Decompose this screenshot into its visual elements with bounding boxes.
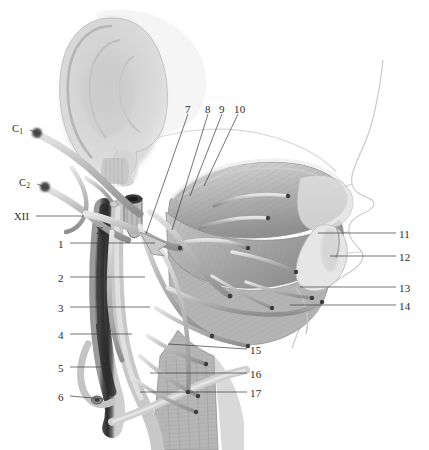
label-12: 12 bbox=[399, 252, 410, 263]
label-13: 13 bbox=[399, 283, 410, 294]
label-7: 7 bbox=[185, 104, 191, 115]
label-c2: C2 bbox=[19, 178, 30, 189]
label-17: 17 bbox=[250, 388, 261, 399]
label-10: 10 bbox=[234, 104, 245, 115]
label-4: 4 bbox=[58, 330, 64, 341]
label-2: 2 bbox=[58, 273, 64, 284]
anatomical-illustration bbox=[0, 0, 429, 450]
label-8: 8 bbox=[205, 104, 211, 115]
label-11: 11 bbox=[399, 229, 410, 240]
label-9: 9 bbox=[219, 104, 225, 115]
label-1: 1 bbox=[58, 239, 64, 250]
label-6: 6 bbox=[58, 392, 64, 403]
label-xii: XII bbox=[14, 212, 29, 223]
label-15: 15 bbox=[250, 345, 261, 356]
label-5: 5 bbox=[58, 363, 64, 374]
label-c1: C1 bbox=[12, 124, 23, 135]
figure-canvas: C1C2XIIX1234567891011121314151617 bbox=[0, 0, 429, 450]
label-14: 14 bbox=[399, 301, 410, 312]
label-3: 3 bbox=[58, 303, 64, 314]
label-x: X bbox=[96, 226, 104, 237]
label-16: 16 bbox=[250, 369, 261, 380]
